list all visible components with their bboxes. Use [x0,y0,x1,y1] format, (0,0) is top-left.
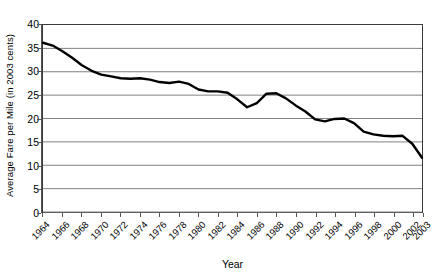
x-tick-mark [237,213,238,217]
x-tick-mark [179,213,180,217]
x-tick-mark [81,213,82,217]
x-tick-mark [394,213,395,217]
x-tick-mark [140,213,141,217]
x-tick-mark [335,213,336,217]
x-tick-mark [62,213,63,217]
chart-page: Average Fare per Mile (in 2003 cents) 05… [0,0,436,276]
x-tick-mark [296,213,297,217]
x-tick-mark [413,213,414,217]
x-tick-mark [423,213,424,217]
x-tick-mark [218,213,219,217]
x-tick-mark [374,213,375,217]
x-tick-mark [120,213,121,217]
x-tick-mark [355,213,356,217]
x-tick-mark [159,213,160,217]
x-axis-title: Year [42,258,423,270]
x-tick-mark [316,213,317,217]
x-tick-mark [257,213,258,217]
x-axis-tick-labels: 1964196619681970197219741976197819801982… [0,0,436,276]
x-tick-mark [198,213,199,217]
x-tick-mark [101,213,102,217]
x-tick-mark [276,213,277,217]
x-tick-mark [42,213,43,217]
